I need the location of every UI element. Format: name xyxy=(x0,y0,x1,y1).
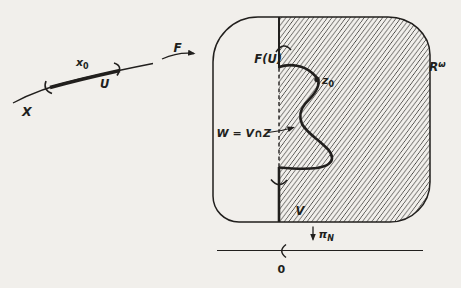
label-u: U xyxy=(100,77,110,91)
label-fu: F(U) xyxy=(254,52,282,66)
label-w: W = V∩Z xyxy=(217,127,272,140)
label-r-omega-base: R xyxy=(429,60,438,74)
topology-figure: X x0 U F F(U) z0 W = V∩Z Rω V πN 0 xyxy=(0,0,461,288)
label-zero: 0 xyxy=(278,263,286,276)
label-v: V xyxy=(296,204,306,218)
label-x0-sub: 0 xyxy=(83,62,89,71)
figure-canvas: X x0 U F F(U) z0 W = V∩Z Rω V πN 0 xyxy=(0,0,461,288)
label-pi-n-sub: N xyxy=(327,234,334,243)
label-x: X xyxy=(21,104,33,119)
label-f: F xyxy=(174,41,183,55)
label-pi-n-base: π xyxy=(319,228,328,241)
point-z0-dot xyxy=(314,77,319,82)
label-r-omega-sup: ω xyxy=(438,59,446,69)
label-z0-sub: 0 xyxy=(328,80,334,89)
